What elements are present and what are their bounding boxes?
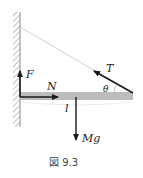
- label-Mg: Mg: [81, 132, 100, 145]
- label-F: F: [25, 68, 34, 81]
- beam-length-arc: [22, 102, 132, 105]
- beam-force-diagram: F N T θ l Mg 図 9.3: [0, 0, 143, 178]
- label-theta: θ: [103, 84, 109, 94]
- label-T: T: [106, 62, 115, 75]
- label-N: N: [46, 80, 57, 93]
- label-l: l: [65, 102, 69, 115]
- theta-angle-arc: [114, 84, 117, 93]
- wall: [13, 12, 20, 127]
- figure-caption: 図 9.3: [49, 157, 78, 168]
- force-T-arrow: [94, 71, 133, 93]
